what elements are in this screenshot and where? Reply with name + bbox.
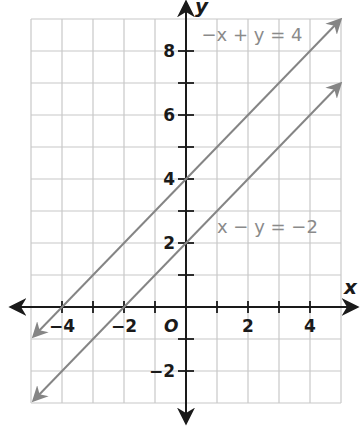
y-tick-label: 6 (163, 105, 175, 125)
x-tick-label: −4 (49, 316, 75, 336)
labels: −4−2248642−2Oxy−x + y = 4x − y = −2 (49, 0, 358, 381)
x-tick-label: 2 (242, 316, 254, 336)
equation-label-2: x − y = −2 (217, 216, 318, 237)
axes (12, 3, 356, 422)
y-axis-label: y (195, 0, 209, 18)
coordinate-plane: −4−2248642−2Oxy−x + y = 4x − y = −2 (0, 0, 361, 434)
x-tick-label: −2 (111, 316, 137, 336)
y-tick-label: 4 (163, 169, 175, 189)
y-tick-label: 2 (163, 233, 175, 253)
x-axis-label: x (343, 275, 358, 299)
y-tick-label: 8 (163, 41, 175, 61)
x-tick-label: 4 (304, 316, 316, 336)
origin-label: O (164, 316, 178, 336)
y-tick-label: −2 (149, 361, 175, 381)
equation-label-1: −x + y = 4 (202, 24, 303, 45)
